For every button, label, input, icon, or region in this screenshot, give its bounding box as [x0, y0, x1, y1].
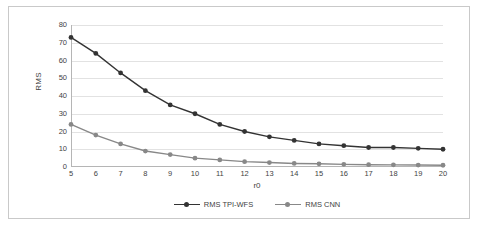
y-tick-label: 60 [43, 57, 67, 65]
legend-swatch [174, 200, 200, 208]
legend-marker [184, 202, 189, 207]
data-point [193, 111, 198, 116]
y-tick-label: 80 [43, 21, 67, 29]
series-line [71, 37, 443, 149]
x-tick-label: 7 [111, 169, 131, 178]
data-point [118, 71, 123, 76]
data-point [168, 102, 173, 107]
data-point [217, 122, 222, 127]
series-layer [71, 25, 443, 167]
legend-marker [285, 202, 290, 207]
chart-legend: RMS TPI-WFSRMS CNN [71, 197, 443, 211]
plot-area [71, 25, 443, 167]
data-point [217, 158, 222, 163]
data-point [292, 161, 297, 166]
data-point [242, 159, 247, 164]
data-point [242, 129, 247, 134]
data-point [366, 145, 371, 150]
y-tick-label: 40 [43, 92, 67, 100]
legend-label: RMS CNN [305, 200, 340, 209]
data-point [441, 147, 446, 152]
data-point [93, 133, 98, 138]
y-tick-label: 70 [43, 39, 67, 47]
legend-entry[interactable]: RMS TPI-WFS [174, 200, 253, 209]
data-point [93, 51, 98, 56]
data-point [118, 142, 123, 147]
data-point [69, 122, 74, 127]
data-point [143, 149, 148, 154]
x-tick-label: 5 [61, 169, 81, 178]
y-tick-label: 10 [43, 145, 67, 153]
data-point [416, 163, 421, 168]
data-point [391, 162, 396, 167]
y-axis-tick-labels: 01020304050607080 [39, 25, 67, 167]
chart-container: RMS 01020304050607080 567891011121314151… [8, 6, 470, 219]
x-tick-label: 13 [259, 169, 279, 178]
x-tick-label: 12 [235, 169, 255, 178]
data-point [317, 161, 322, 166]
x-tick-label: 17 [359, 169, 379, 178]
data-point [391, 145, 396, 150]
data-point [267, 160, 272, 165]
data-point [416, 146, 421, 151]
x-tick-label: 14 [284, 169, 304, 178]
x-tick-label: 19 [408, 169, 428, 178]
legend-entry[interactable]: RMS CNN [275, 200, 340, 209]
data-point [193, 156, 198, 161]
data-point [69, 35, 74, 40]
data-point [168, 152, 173, 157]
data-point [441, 163, 446, 168]
data-point [292, 138, 297, 143]
data-point [267, 134, 272, 139]
x-tick-label: 20 [433, 169, 453, 178]
y-tick-label: 30 [43, 110, 67, 118]
series-line [71, 124, 443, 165]
x-tick-label: 16 [334, 169, 354, 178]
x-tick-label: 9 [160, 169, 180, 178]
data-point [341, 143, 346, 148]
legend-swatch [275, 200, 301, 208]
y-tick-label: 50 [43, 74, 67, 82]
data-point [366, 162, 371, 167]
legend-label: RMS TPI-WFS [204, 200, 253, 209]
data-point [143, 88, 148, 93]
data-point [317, 142, 322, 147]
x-tick-label: 8 [135, 169, 155, 178]
y-tick-label: 20 [43, 128, 67, 136]
x-tick-label: 11 [210, 169, 230, 178]
data-point [341, 162, 346, 167]
x-tick-label: 6 [86, 169, 106, 178]
x-axis-title: r0 [71, 181, 443, 190]
x-tick-label: 15 [309, 169, 329, 178]
x-axis-tick-labels: 567891011121314151617181920 [71, 169, 443, 181]
x-tick-label: 18 [383, 169, 403, 178]
x-tick-label: 10 [185, 169, 205, 178]
